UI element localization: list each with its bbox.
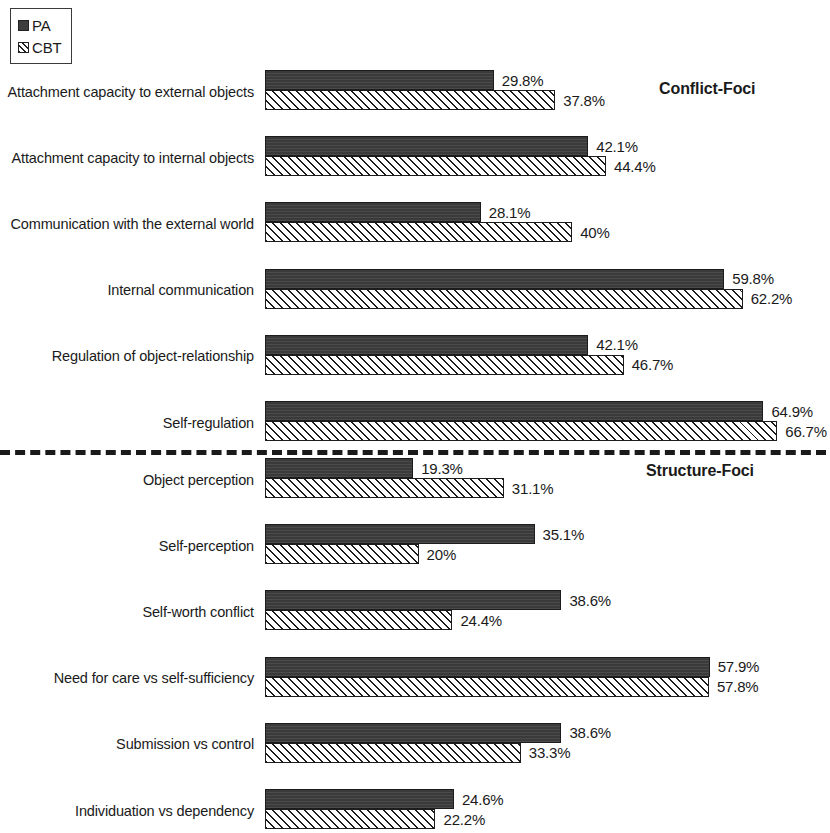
bar-pa[interactable]: [265, 524, 535, 544]
bar-pair: 29.8%37.8%: [265, 70, 605, 114]
bar-pa[interactable]: [265, 202, 481, 222]
bar-pair: 57.9%57.8%: [265, 657, 759, 701]
bar-value-label: 62.2%: [751, 291, 793, 306]
bar-value-label: 19.3%: [421, 461, 463, 476]
bar-value-label: 40%: [580, 225, 609, 240]
chart-row: Internal communication59.8%62.2%: [0, 269, 830, 313]
bar-pair: 42.1%44.4%: [265, 136, 656, 180]
category-label: Submission vs control: [4, 723, 254, 767]
category-label: Internal communication: [4, 269, 254, 313]
chart-row: Attachment capacity to external objects2…: [0, 70, 830, 114]
bar-value-label: 46.7%: [632, 357, 674, 372]
bar-row-cbt: 31.1%: [265, 478, 553, 498]
bar-value-label: 24.6%: [462, 792, 504, 807]
chart-row: Object perception19.3%31.1%: [0, 458, 830, 502]
chart-row: Self-worth conflict38.6%24.4%: [0, 590, 830, 634]
category-label: Self-perception: [4, 524, 254, 568]
bar-value-label: 59.8%: [732, 271, 774, 286]
bar-row-pa: 29.8%: [265, 70, 605, 90]
bar-cbt[interactable]: [265, 90, 555, 110]
bar-cbt[interactable]: [265, 478, 504, 498]
chart-row: Self-perception35.1%20%: [0, 524, 830, 568]
category-label: Regulation of object-relationship: [4, 335, 254, 379]
bar-value-label: 33.3%: [529, 745, 571, 760]
chart-row: Individuation vs dependency24.6%22.2%: [0, 789, 830, 833]
category-label: Self-worth conflict: [4, 590, 254, 634]
bar-value-label: 28.1%: [489, 205, 531, 220]
bar-cbt[interactable]: [265, 677, 709, 697]
bar-pa[interactable]: [265, 136, 588, 156]
bar-pa[interactable]: [265, 269, 724, 289]
bar-pa[interactable]: [265, 335, 588, 355]
bar-row-pa: 64.9%: [265, 401, 827, 421]
category-label: Need for care vs self-sufficiency: [4, 657, 254, 701]
bar-value-label: 57.9%: [718, 659, 760, 674]
bar-pair: 42.1%46.7%: [265, 335, 673, 379]
bar-value-label: 42.1%: [596, 337, 638, 352]
bar-row-pa: 57.9%: [265, 657, 759, 677]
bar-pair: 59.8%62.2%: [265, 269, 792, 313]
bar-row-pa: 24.6%: [265, 789, 503, 809]
bar-value-label: 24.4%: [460, 613, 502, 628]
category-label: Communication with the external world: [4, 202, 254, 246]
bar-value-label: 64.9%: [771, 404, 813, 419]
bar-row-cbt: 44.4%: [265, 156, 656, 176]
bar-cbt[interactable]: [265, 809, 435, 829]
bar-value-label: 37.8%: [563, 93, 605, 108]
bar-row-pa: 38.6%: [265, 723, 611, 743]
chart-row: Attachment capacity to internal objects4…: [0, 136, 830, 180]
bar-value-label: 38.6%: [569, 593, 611, 608]
bar-row-pa: 28.1%: [265, 202, 610, 222]
bar-value-label: 35.1%: [543, 527, 585, 542]
bar-row-cbt: 22.2%: [265, 809, 503, 829]
bar-pair: 38.6%24.4%: [265, 590, 611, 634]
bar-cbt[interactable]: [265, 610, 452, 630]
bar-cbt[interactable]: [265, 743, 521, 763]
bar-cbt[interactable]: [265, 156, 606, 176]
bar-pa[interactable]: [265, 401, 763, 421]
bar-row-cbt: 46.7%: [265, 355, 673, 375]
bar-pa[interactable]: [265, 458, 413, 478]
bar-pa[interactable]: [265, 657, 710, 677]
chart-row: Need for care vs self-sufficiency57.9%57…: [0, 657, 830, 701]
category-label: Attachment capacity to internal objects: [4, 136, 254, 180]
bar-pair: 19.3%31.1%: [265, 458, 553, 502]
bar-row-pa: 42.1%: [265, 136, 656, 156]
bar-cbt[interactable]: [265, 289, 743, 309]
category-label: Attachment capacity to external objects: [4, 70, 254, 114]
bar-pa[interactable]: [265, 723, 561, 743]
category-label: Self-regulation: [4, 401, 254, 445]
bar-pa[interactable]: [265, 70, 494, 90]
bar-row-cbt: 24.4%: [265, 610, 611, 630]
bar-pa[interactable]: [265, 789, 454, 809]
bar-pair: 28.1%40%: [265, 202, 610, 246]
chart-row: Submission vs control38.6%33.3%: [0, 723, 830, 767]
bar-value-label: 38.6%: [569, 725, 611, 740]
category-label: Individuation vs dependency: [4, 789, 254, 833]
bar-cbt[interactable]: [265, 222, 572, 242]
bar-cbt[interactable]: [265, 355, 624, 375]
bar-pair: 38.6%33.3%: [265, 723, 611, 767]
bar-value-label: 31.1%: [512, 481, 554, 496]
bar-value-label: 20%: [427, 547, 456, 562]
bar-value-label: 57.8%: [717, 679, 759, 694]
category-label: Object perception: [4, 458, 254, 502]
bar-value-label: 44.4%: [614, 159, 656, 174]
bar-row-cbt: 33.3%: [265, 743, 611, 763]
bar-pa[interactable]: [265, 590, 561, 610]
bar-row-pa: 59.8%: [265, 269, 792, 289]
bar-row-cbt: 66.7%: [265, 421, 827, 441]
bar-cbt[interactable]: [265, 421, 777, 441]
bar-row-cbt: 62.2%: [265, 289, 792, 309]
bar-cbt[interactable]: [265, 544, 419, 564]
bar-pair: 24.6%22.2%: [265, 789, 503, 833]
bar-row-cbt: 20%: [265, 544, 584, 564]
bar-value-label: 29.8%: [502, 73, 544, 88]
bar-value-label: 42.1%: [596, 139, 638, 154]
bar-value-label: 22.2%: [443, 812, 485, 827]
chart-row: Self-regulation64.9%66.7%: [0, 401, 830, 445]
bar-row-pa: 35.1%: [265, 524, 584, 544]
bar-row-cbt: 57.8%: [265, 677, 759, 697]
bar-value-label: 66.7%: [785, 424, 827, 439]
